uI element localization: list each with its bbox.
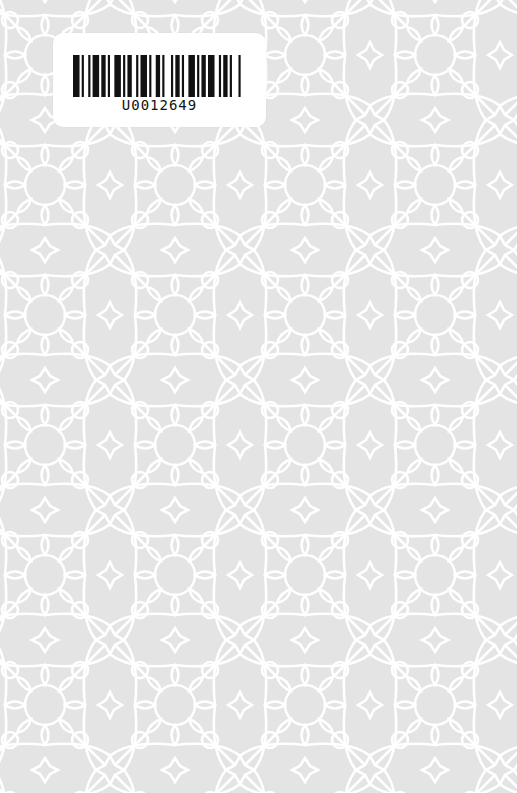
barcode-number: U0012649 xyxy=(53,97,266,113)
book-cover: U0012649 xyxy=(0,0,517,793)
barcode-label: U0012649 xyxy=(53,33,266,127)
barcode xyxy=(73,55,245,97)
